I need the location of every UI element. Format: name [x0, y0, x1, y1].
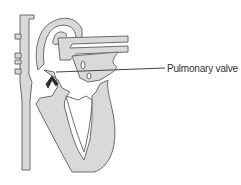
- vessel-opening: [87, 73, 91, 79]
- pulmonary-valve-label: Pulmonary valve: [167, 63, 238, 74]
- heart-diagram: [0, 0, 241, 185]
- left-atrium: [72, 52, 118, 82]
- vessel-branch: [15, 60, 21, 64]
- vessel-branch: [15, 53, 21, 58]
- pulmonary-valve-highlight: [46, 76, 58, 88]
- vessel-branch: [15, 69, 21, 74]
- vessel-opening: [81, 61, 85, 69]
- vessel-branch: [15, 34, 21, 39]
- vena-cava: [20, 15, 34, 170]
